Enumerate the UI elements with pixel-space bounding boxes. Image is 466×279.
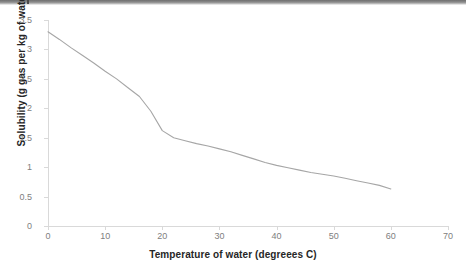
x-tick-label: 10 <box>100 231 110 241</box>
y-tick-label: 0 <box>27 221 32 231</box>
y-tick-label: 3.5 <box>19 15 32 25</box>
top-edge-band-tick <box>27 0 29 4</box>
x-axis-title: Temperature of water (degreees C) <box>0 249 466 260</box>
y-tick-label: 1 <box>27 162 32 172</box>
y-tick-label: 1.5 <box>19 133 32 143</box>
solubility-line-series <box>48 20 448 227</box>
y-tick-label: 0.5 <box>19 192 32 202</box>
x-tick-label: 0 <box>45 231 50 241</box>
y-tick-label: 3 <box>27 44 32 54</box>
plot-area <box>48 20 448 227</box>
x-tick-label: 20 <box>157 231 167 241</box>
y-tick-label: 2.5 <box>19 74 32 84</box>
x-tick-label: 70 <box>443 231 453 241</box>
y-axis-tick-labels: 00.511.522.533.5 <box>0 20 32 227</box>
x-tick-label: 50 <box>329 231 339 241</box>
chart-screenshot: Solubility (g gas per kg of water) 00.51… <box>0 0 466 279</box>
x-tick-label: 40 <box>272 231 282 241</box>
y-tick-label: 2 <box>27 103 32 113</box>
top-edge-band <box>0 0 466 5</box>
x-tick-label: 60 <box>386 231 396 241</box>
x-tick-label: 30 <box>214 231 224 241</box>
x-tick-mark <box>448 226 449 230</box>
